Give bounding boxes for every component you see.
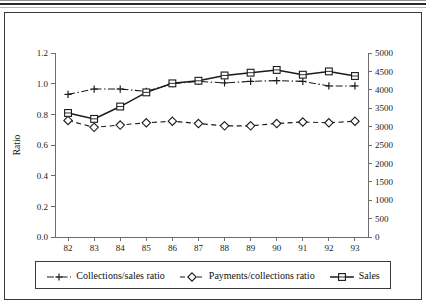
y-axis-right-tick-label: 3000 (375, 122, 394, 132)
y-axis-left-title: Ratio (12, 134, 22, 155)
data-point-marker (90, 123, 98, 131)
data-point-marker (91, 85, 98, 92)
data-point-marker (221, 79, 228, 86)
x-axis-tick-label: 88 (220, 243, 230, 253)
legend-item-label: Collections/sales ratio (76, 270, 165, 281)
x-axis-tick-label: 82 (64, 243, 73, 253)
data-point-marker (325, 82, 332, 89)
data-point-marker (64, 91, 71, 98)
chart-legend: Collections/sales ratioPayments/collecti… (35, 261, 391, 289)
data-point-marker (65, 110, 72, 117)
data-point-marker (299, 118, 307, 126)
y-axis-right-tick-label: 4000 (375, 85, 394, 95)
legend-item-3[interactable]: Sales (322, 269, 387, 281)
data-point-marker (351, 82, 358, 89)
y-axis-right-tick-label: 3500 (375, 103, 394, 113)
data-point-marker (169, 80, 176, 87)
x-axis-tick-label: 90 (272, 243, 282, 253)
chart-plot: 0.00.20.40.60.81.01.2Ratio05001000150020… (0, 0, 426, 304)
data-point-marker (221, 72, 228, 79)
legend-item-2[interactable]: Payments/collections ratio (172, 269, 322, 281)
data-point-marker (273, 77, 280, 84)
y-axis-right-tick-label: 2500 (375, 140, 394, 150)
data-point-marker (117, 103, 124, 110)
y-axis-left-tick-label: 0.4 (37, 171, 49, 181)
data-point-marker (142, 119, 150, 127)
x-axis-tick-label: 89 (246, 243, 256, 253)
x-axis-tick-label: 84 (116, 243, 126, 253)
y-axis-left-tick-label: 0.6 (37, 140, 49, 150)
data-point-marker (247, 69, 254, 76)
chart-page: 0.00.20.40.60.81.01.2Ratio05001000150020… (0, 0, 426, 304)
series-line-3 (68, 70, 355, 119)
data-point-marker (168, 117, 176, 125)
y-axis-left-tick-label: 1.2 (37, 48, 48, 58)
x-axis-tick-label: 86 (168, 243, 178, 253)
data-point-marker (246, 122, 254, 130)
x-axis-tick-label: 92 (324, 243, 333, 253)
data-point-marker (117, 85, 124, 92)
y-axis-right-tick-label: 2000 (375, 159, 394, 169)
x-axis-tick-label: 83 (90, 243, 100, 253)
data-point-marker (351, 117, 359, 125)
y-axis-right-tick-label: 1500 (375, 177, 394, 187)
data-point-marker (352, 73, 359, 80)
data-point-marker (325, 119, 333, 127)
data-point-marker (116, 121, 124, 129)
legend-item-label: Payments/collections ratio (209, 270, 315, 281)
data-point-marker (91, 115, 98, 122)
x-axis-tick-label: 87 (194, 243, 204, 253)
y-axis-right-tick-label: 1000 (375, 195, 394, 205)
legend-item-label: Sales (359, 270, 380, 281)
data-point-marker (273, 67, 280, 74)
data-point-marker (247, 78, 254, 85)
data-point-marker (194, 119, 202, 127)
y-axis-left-tick-label: 0.8 (37, 110, 49, 120)
y-axis-left-tick-label: 1.0 (37, 79, 49, 89)
data-point-marker (299, 78, 306, 85)
y-axis-right-tick-label: 500 (375, 214, 389, 224)
y-axis-left-tick-label: 0.2 (37, 202, 48, 212)
data-point-marker (299, 71, 306, 78)
y-axis-right-tick-label: 0 (375, 232, 380, 242)
x-axis-tick-label: 85 (142, 243, 152, 253)
x-axis-tick-label: 93 (350, 243, 360, 253)
plus-marker (46, 269, 72, 281)
data-point-marker (220, 122, 228, 130)
series-line-2 (68, 120, 355, 127)
y-axis-right-tick-label: 5000 (375, 48, 394, 58)
data-point-marker (143, 89, 150, 96)
series-line-1 (68, 81, 355, 95)
y-axis-right-tick-label: 4500 (375, 67, 394, 77)
y-axis-left-tick-label: 0.0 (37, 232, 49, 242)
x-axis-tick-label: 91 (298, 243, 307, 253)
legend-item-1[interactable]: Collections/sales ratio (39, 269, 172, 281)
data-point-marker (325, 68, 332, 75)
data-point-marker (273, 119, 281, 127)
square-marker (329, 269, 355, 281)
diamond-marker (179, 269, 205, 281)
data-point-marker (64, 116, 72, 124)
data-point-marker (195, 77, 202, 84)
